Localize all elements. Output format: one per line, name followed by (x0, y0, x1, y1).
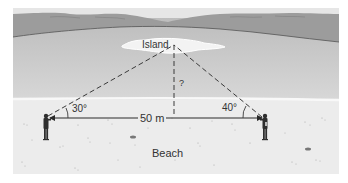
beach (13, 100, 339, 174)
distance-label: 50 m (140, 112, 164, 124)
beach-label: Beach (152, 147, 183, 159)
height-unknown-label: ? (179, 78, 184, 88)
beach-pebble (130, 136, 136, 139)
beach-island-diagram: Island ? 50 m 30° 40° Beach (0, 0, 348, 183)
island-label: Island (142, 39, 169, 50)
beach-pebble (305, 148, 311, 151)
left-angle-label: 30° (72, 103, 87, 114)
right-angle-label: 40° (222, 102, 237, 113)
